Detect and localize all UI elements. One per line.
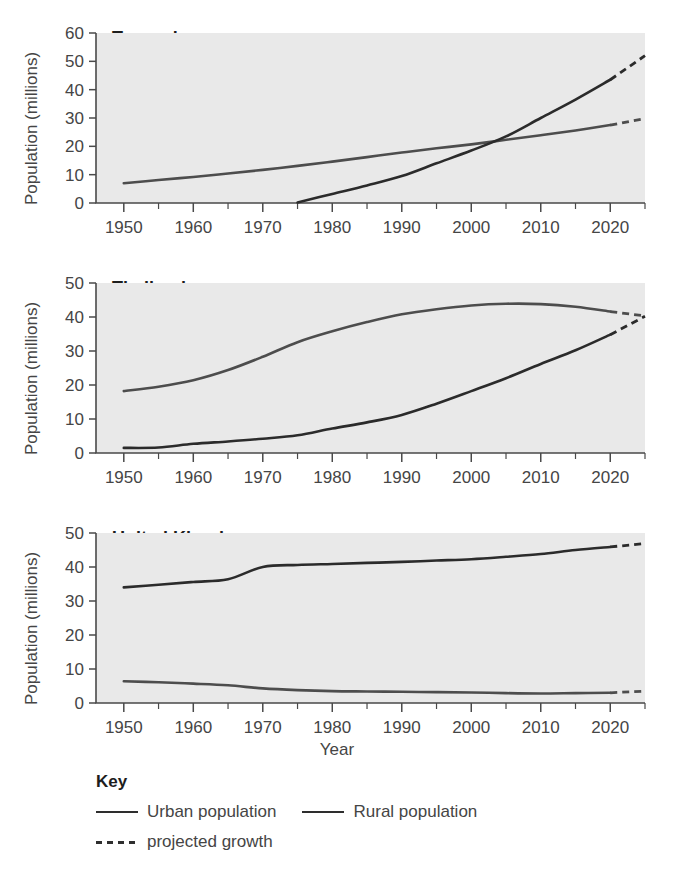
legend-item-rural-population: Rural population xyxy=(302,802,477,822)
x-axis-label: Year xyxy=(0,740,674,760)
y-tick-label: 0 xyxy=(75,694,84,713)
y-tick-label: 10 xyxy=(65,660,84,679)
x-tick-label: 1970 xyxy=(244,468,282,487)
y-tick-label: 50 xyxy=(65,524,84,543)
y-tick-label: 60 xyxy=(65,24,84,43)
legend-label-urban: Urban population xyxy=(147,802,276,822)
legend-row-population: Urban population Rural population xyxy=(96,802,656,822)
x-tick-label: 2020 xyxy=(591,468,629,487)
legend-key: Key Urban population Rural population pr… xyxy=(96,772,656,862)
plot-background xyxy=(96,533,645,703)
solid-line-icon xyxy=(96,811,138,813)
plot-area-tanzania: 0102030405060195019601970198019902000201… xyxy=(0,0,674,250)
y-tick-label: 10 xyxy=(65,166,84,185)
y-tick-label: 50 xyxy=(65,274,84,293)
x-tick-label: 1970 xyxy=(244,218,282,237)
legend-label-rural: Rural population xyxy=(353,802,477,822)
x-tick-label: 1960 xyxy=(174,718,212,737)
figure-page: Population (millions) Tanzania 010203040… xyxy=(0,0,674,891)
x-tick-label: 1980 xyxy=(313,218,351,237)
plot-area-united-kingdom: 0102030405019501960197019801990200020102… xyxy=(0,500,674,750)
y-tick-label: 40 xyxy=(65,81,84,100)
x-tick-label: 1980 xyxy=(313,468,351,487)
x-tick-label: 1970 xyxy=(244,718,282,737)
x-tick-label: 2000 xyxy=(452,218,490,237)
y-tick-label: 30 xyxy=(65,592,84,611)
x-tick-label: 1990 xyxy=(383,468,421,487)
y-tick-label: 0 xyxy=(75,194,84,213)
x-tick-label: 1950 xyxy=(105,718,143,737)
dashed-line-icon xyxy=(96,841,138,844)
x-tick-label: 1990 xyxy=(383,718,421,737)
y-tick-label: 20 xyxy=(65,376,84,395)
x-tick-label: 1960 xyxy=(174,468,212,487)
x-tick-label: 2010 xyxy=(522,468,560,487)
y-tick-label: 40 xyxy=(65,558,84,577)
y-tick-label: 20 xyxy=(65,137,84,156)
legend-item-projected-growth: projected growth xyxy=(96,832,273,852)
chart-panel-thailand: Population (millions) Thailand 010203040… xyxy=(0,250,674,500)
y-tick-label: 30 xyxy=(65,342,84,361)
y-tick-label: 20 xyxy=(65,626,84,645)
plot-area-thailand: 0102030405019501960197019801990200020102… xyxy=(0,250,674,500)
y-tick-label: 30 xyxy=(65,109,84,128)
x-tick-label: 1960 xyxy=(174,218,212,237)
x-tick-label: 2020 xyxy=(591,718,629,737)
plot-background xyxy=(96,283,645,453)
series-line-rural-population-projected-growth xyxy=(610,691,645,693)
x-tick-label: 1950 xyxy=(105,218,143,237)
solid-line-icon xyxy=(302,811,344,813)
y-tick-label: 0 xyxy=(75,444,84,463)
x-tick-label: 2000 xyxy=(452,718,490,737)
x-tick-label: 2010 xyxy=(522,718,560,737)
chart-panel-united-kingdom: Population (millions) United Kingdom 010… xyxy=(0,500,674,750)
y-tick-label: 50 xyxy=(65,52,84,71)
x-tick-label: 2000 xyxy=(452,468,490,487)
legend-row-projection: projected growth xyxy=(96,832,656,852)
y-tick-label: 10 xyxy=(65,410,84,429)
x-tick-label: 2020 xyxy=(591,218,629,237)
x-tick-label: 2010 xyxy=(522,218,560,237)
x-tick-label: 1980 xyxy=(313,718,351,737)
x-tick-label: 1950 xyxy=(105,468,143,487)
legend-title: Key xyxy=(96,772,656,792)
legend-label-projected: projected growth xyxy=(147,832,273,852)
y-tick-label: 40 xyxy=(65,308,84,327)
legend-item-urban-population: Urban population xyxy=(96,802,276,822)
x-tick-label: 1990 xyxy=(383,218,421,237)
chart-panel-tanzania: Population (millions) Tanzania 010203040… xyxy=(0,0,674,250)
